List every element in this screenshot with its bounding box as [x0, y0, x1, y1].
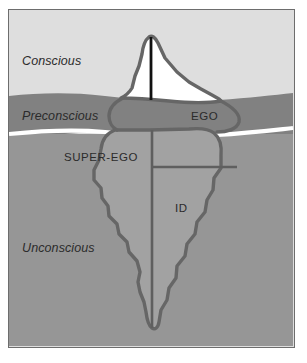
structure-label-id: ID: [175, 203, 188, 215]
figure-container: Conscious Preconscious Unconscious EGO S…: [0, 0, 307, 363]
structure-label-ego: EGO: [191, 111, 218, 123]
zone-label-conscious: Conscious: [22, 55, 81, 68]
structure-label-super-ego: SUPER-EGO: [64, 152, 138, 164]
zone-label-unconscious: Unconscious: [22, 242, 95, 255]
zone-label-preconscious: Preconscious: [22, 110, 98, 123]
figure-caption: [10, 352, 302, 362]
